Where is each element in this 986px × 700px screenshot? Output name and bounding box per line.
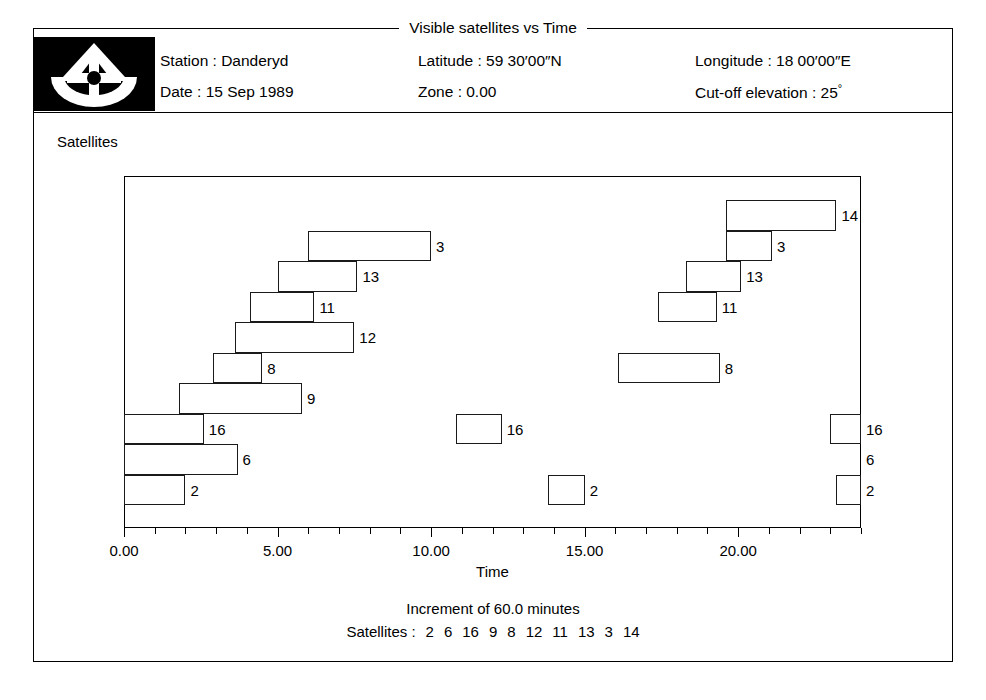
- x-axis-minor-tick: [769, 528, 770, 534]
- x-axis-minor-tick: [155, 528, 156, 534]
- x-axis-label: Time: [124, 563, 861, 580]
- cutoff-elevation-value: Cut-off elevation : 25°: [695, 82, 950, 102]
- visibility-bar: [124, 414, 204, 445]
- bar-label: 13: [746, 269, 763, 284]
- bar-label: 8: [725, 361, 733, 376]
- x-axis-minor-tick: [830, 528, 831, 534]
- bar-label: 11: [722, 300, 738, 315]
- satellite-prn: 2: [421, 623, 439, 640]
- bar-label: 6: [866, 452, 874, 467]
- bar-label: 16: [507, 422, 524, 437]
- bar-label: 16: [209, 422, 226, 437]
- station-header: Station : Danderyd Latitude : 59 30′00″N…: [160, 45, 950, 107]
- visibility-bar: [548, 475, 585, 506]
- zone-value: Zone : 0.00: [418, 83, 695, 101]
- cutoff-elevation-text: Cut-off elevation : 25: [695, 84, 838, 101]
- visibility-bar: [726, 200, 837, 231]
- satellite-prn: 9: [484, 623, 502, 640]
- x-axis-tick-label: 20.00: [719, 542, 757, 559]
- x-axis-tick-label: 0.00: [109, 542, 138, 559]
- bar-label: 2: [590, 483, 598, 498]
- x-axis-major-tick: [585, 528, 586, 537]
- visibility-bar: [213, 353, 262, 384]
- x-axis-minor-tick: [646, 528, 647, 534]
- visibility-bar: [618, 353, 719, 384]
- figure-root: Visible satellites vs Time Station : Dan…: [0, 0, 986, 700]
- bar-label: 8: [267, 361, 275, 376]
- visibility-bar: [726, 231, 772, 262]
- longitude-text: Longitude : 18 00′00″E: [695, 52, 851, 69]
- x-axis-minor-tick: [800, 528, 801, 534]
- bar-label: 9: [307, 391, 315, 406]
- x-axis-minor-tick: [615, 528, 616, 534]
- x-axis-tick-label: 10.00: [412, 542, 450, 559]
- x-axis-minor-tick: [523, 528, 524, 534]
- satellite-prn: 12: [521, 623, 548, 640]
- x-axis-minor-tick: [308, 528, 309, 534]
- longitude-value: Longitude : 18 00′00″E: [695, 52, 950, 70]
- visibility-bar: [456, 414, 502, 445]
- x-axis-tick-label: 5.00: [263, 542, 292, 559]
- bar-label: 11: [319, 300, 335, 315]
- header-row-2: Date : 15 Sep 1989 Zone : 0.00 Cut-off e…: [160, 76, 950, 107]
- visibility-bar: [124, 444, 238, 475]
- x-axis-major-tick: [738, 528, 739, 537]
- x-axis-minor-tick: [400, 528, 401, 534]
- observation-date: Date : 15 Sep 1989: [160, 83, 418, 101]
- visibility-bar: [278, 261, 358, 292]
- theodolite-compass-icon: [33, 37, 155, 111]
- y-axis-label: Satellites: [57, 133, 118, 150]
- satellite-prn: 3: [600, 623, 618, 640]
- x-axis-minor-tick: [216, 528, 217, 534]
- bar-label: 12: [359, 330, 376, 345]
- header-row-1: Station : Danderyd Latitude : 59 30′00″N…: [160, 45, 950, 76]
- bar-label: 16: [866, 422, 883, 437]
- x-axis-minor-tick: [677, 528, 678, 534]
- visibility-bar: [686, 261, 741, 292]
- x-axis-minor-tick: [247, 528, 248, 534]
- increment-caption: Increment of 60.0 minutes: [33, 600, 953, 617]
- satellite-prn: 14: [618, 623, 645, 640]
- bar-label: 13: [362, 269, 379, 284]
- x-axis-major-tick: [431, 528, 432, 537]
- visibility-bar: [830, 414, 861, 445]
- x-axis-minor-tick: [554, 528, 555, 534]
- satellite-prn: 8: [502, 623, 520, 640]
- visibility-bar: [250, 292, 314, 323]
- visibility-bar: [658, 292, 716, 323]
- satellite-prn: 11: [547, 623, 573, 640]
- x-axis-major-tick: [124, 528, 125, 537]
- x-axis-tick-label: 15.00: [566, 542, 604, 559]
- plot-surface: 1433131311111288916161662226: [124, 176, 861, 528]
- x-axis-major-tick: [278, 528, 279, 537]
- bar-label: 14: [841, 208, 858, 223]
- satellite-prn: 6: [439, 623, 457, 640]
- bar-label: 2: [190, 483, 198, 498]
- visibility-bar: [124, 475, 185, 506]
- satellite-prn: 16: [457, 623, 484, 640]
- x-axis-minor-tick: [861, 528, 862, 534]
- x-axis-minor-tick: [185, 528, 186, 534]
- visibility-bar: [235, 322, 355, 353]
- x-axis-minor-tick: [370, 528, 371, 534]
- satellite-order-caption: Satellites :261698121113314: [33, 623, 953, 640]
- x-axis-minor-tick: [493, 528, 494, 534]
- x-axis-minor-tick: [707, 528, 708, 534]
- visibility-bar: [179, 383, 302, 414]
- bar-label: 3: [777, 239, 785, 254]
- bar-label: 3: [436, 239, 444, 254]
- x-axis-minor-tick: [462, 528, 463, 534]
- degree-symbol: °: [838, 82, 842, 94]
- header-divider: [33, 112, 953, 113]
- x-axis-minor-tick: [339, 528, 340, 534]
- visibility-bar: [308, 231, 431, 262]
- latitude-value: Latitude : 59 30′00″N: [418, 52, 695, 70]
- bar-label: 6: [243, 452, 251, 467]
- satellite-prn: 13: [573, 623, 600, 640]
- bar-label: 2: [866, 483, 874, 498]
- station-name: Station : Danderyd: [160, 52, 418, 70]
- visibility-bar: [836, 475, 861, 506]
- satellites-caption-prefix: Satellites :: [341, 623, 420, 640]
